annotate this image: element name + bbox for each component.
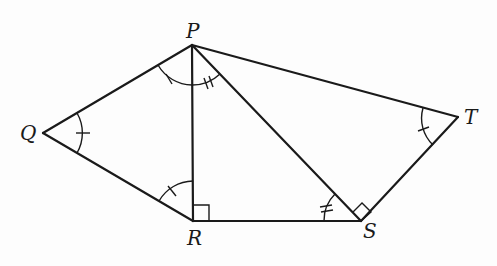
vertex-label-p: P xyxy=(185,19,200,43)
angle-mark-t xyxy=(418,108,433,145)
angle-mark-prq xyxy=(159,181,193,201)
geometry-figure: P Q R S T xyxy=(0,0,497,266)
diagram-canvas: P Q R S T xyxy=(0,0,497,266)
segment-st xyxy=(361,117,458,221)
angle-mark-psr xyxy=(320,194,335,221)
segment-ps xyxy=(192,45,361,221)
vertex-label-s: S xyxy=(363,219,377,243)
vertex-label-q: Q xyxy=(20,121,36,145)
segment-pr xyxy=(192,45,193,221)
segment-pt xyxy=(192,45,458,117)
angle-mark-q xyxy=(76,113,90,153)
segment-qr xyxy=(43,133,193,221)
right-angle-mark-r xyxy=(193,205,209,221)
angle-mark-qpr xyxy=(158,65,192,85)
vertex-label-t: T xyxy=(464,105,479,129)
angle-mark-rps xyxy=(192,74,220,89)
vertex-label-r: R xyxy=(186,226,202,250)
segment-pq xyxy=(43,45,192,133)
